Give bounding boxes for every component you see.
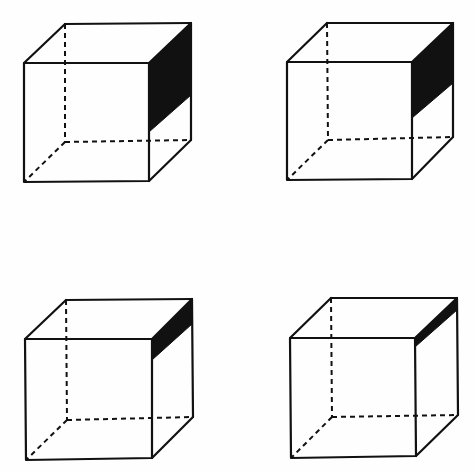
cube-top-left (24, 23, 191, 182)
back-right-edge (457, 298, 458, 415)
front-face (290, 338, 416, 458)
back-top-edge (66, 299, 192, 300)
cube-bottom-left (25, 299, 193, 460)
cube-top-right (287, 23, 453, 180)
cubes-figure (0, 0, 475, 472)
hidden-edge-horizontal (67, 417, 193, 420)
hidden-edge-vertical (66, 300, 67, 420)
shaded-band (152, 299, 192, 360)
depth-edge-bottom-right (149, 140, 191, 181)
depth-edge-bottom-right (412, 137, 453, 179)
back-right-edge (192, 299, 193, 417)
depth-edge-top-left (24, 24, 65, 63)
hidden-edge-depth (24, 142, 65, 182)
hidden-edge-horizontal (328, 137, 453, 140)
hidden-edge-horizontal (332, 415, 458, 417)
shaded-band (149, 23, 191, 132)
hidden-edge-vertical (327, 23, 328, 140)
hidden-edge-depth (291, 417, 332, 458)
back-top-edge (65, 23, 191, 24)
hidden-edge-vertical (331, 298, 332, 417)
depth-edge-top-left (25, 300, 66, 339)
depth-edge-bottom-right (416, 415, 458, 456)
cube-bottom-right (290, 298, 458, 458)
hidden-edge-depth (287, 140, 328, 180)
depth-edge-bottom-right (152, 417, 193, 458)
hidden-edge-depth (26, 420, 67, 460)
shaded-band (412, 23, 453, 118)
depth-edge-top-right (415, 298, 457, 338)
depth-edge-top-left (290, 298, 331, 338)
hidden-edge-horizontal (65, 140, 191, 142)
depth-edge-top-left (287, 23, 327, 62)
